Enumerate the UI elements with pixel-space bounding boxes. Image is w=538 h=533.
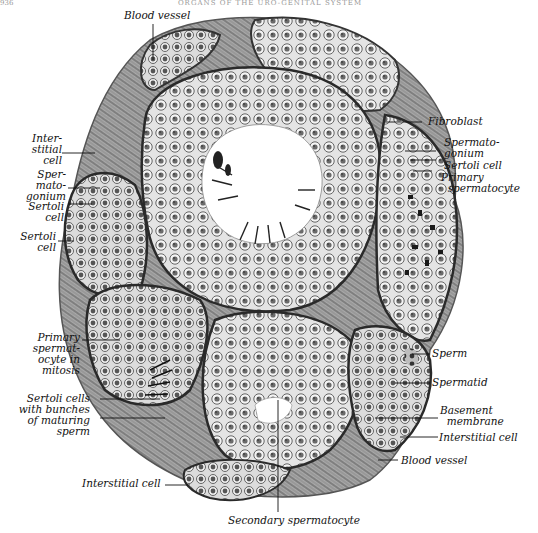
label-primary-spermatocyte-right: Primary spermatocyte bbox=[441, 172, 520, 194]
label-fibroblast: Fibroblast bbox=[428, 116, 483, 127]
label-primary-spermatocyte-mitosis: Primary spermat- ocyte in mitosis bbox=[20, 332, 80, 376]
histology-figure: Blood vessel Inter- stitial cell Sper- m… bbox=[0, 0, 538, 533]
label-blood-vessel-top: Blood vessel bbox=[124, 10, 190, 21]
label-sertoli-cell-right: Sertoli cell bbox=[444, 160, 502, 171]
label-basement-membrane: Basement membrane bbox=[440, 405, 504, 427]
label-interstitial-cell-bottom: Interstitial cell bbox=[82, 478, 161, 489]
label-spermatogonium-right: Spermato- gonium bbox=[444, 137, 499, 159]
label-spermatogonium-left: Sper- mato- gonium bbox=[22, 169, 66, 202]
label-interstitial-cell-left: Inter- stitial cell bbox=[22, 133, 62, 166]
label-sertoli-cell-left-2: Sertoli cell bbox=[14, 231, 56, 253]
label-sertoli-cell-left-1: Sertoli cell bbox=[22, 201, 64, 223]
label-secondary-spermatocyte: Secondary spermatocyte bbox=[228, 515, 360, 526]
label-sertoli-cells-bunches: Sertoli cells with bunches of maturing s… bbox=[18, 393, 90, 437]
label-sperm: Sperm bbox=[432, 348, 467, 359]
label-interstitial-cell-right: Interstitial cell bbox=[439, 432, 518, 443]
label-spermatid: Spermatid bbox=[432, 377, 488, 388]
label-blood-vessel-right: Blood vessel bbox=[401, 455, 467, 466]
